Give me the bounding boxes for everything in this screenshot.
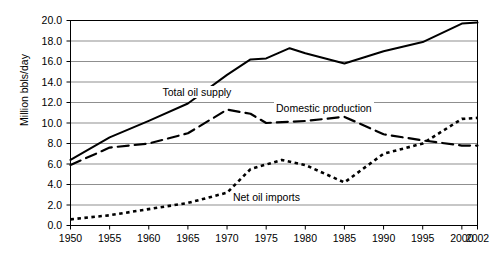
- y-tick-label: 20.0: [28, 15, 62, 25]
- y-tick-label: 8.0: [28, 138, 62, 148]
- x-tick-label: 1975: [246, 233, 286, 244]
- y-tick-label: 10.0: [28, 118, 62, 128]
- y-tick-label: 6.0: [28, 159, 62, 169]
- y-tick-label: 2.0: [28, 200, 62, 210]
- x-tick-label: 1995: [403, 233, 443, 244]
- y-tick-label: 18.0: [28, 36, 62, 46]
- x-tick-label: 1960: [129, 233, 169, 244]
- series-label-net-oil-imports: Net oil imports: [231, 191, 302, 203]
- series-label-domestic-production: Domestic production: [274, 102, 374, 114]
- x-tick-label: 1970: [207, 233, 247, 244]
- x-tick-label: 1985: [324, 233, 364, 244]
- x-tick-label: 1965: [168, 233, 208, 244]
- x-tick-marks: [71, 226, 478, 230]
- x-tick-label: 2002: [458, 233, 493, 244]
- gridlines: [71, 41, 478, 205]
- series-line: [71, 110, 478, 165]
- x-tick-label: 1950: [51, 233, 91, 244]
- y-tick-label: 14.0: [28, 77, 62, 87]
- x-tick-label: 1955: [90, 233, 130, 244]
- y-axis-label: Million bbls/day: [18, 30, 30, 150]
- x-tick-label: 1980: [285, 233, 325, 244]
- y-tick-label: 16.0: [28, 56, 62, 66]
- y-tick-label: 0.0: [28, 220, 62, 230]
- x-tick-label: 1990: [364, 233, 404, 244]
- y-tick-label: 12.0: [28, 97, 62, 107]
- series-label-total-oil-supply: Total oil supply: [161, 86, 234, 98]
- y-tick-label: 4.0: [28, 179, 62, 189]
- chart-plot-area: [0, 0, 493, 259]
- y-tick-marks: [67, 21, 71, 226]
- series-line: [71, 118, 478, 219]
- oil-supply-line-chart: Million bbls/day 0.02.04.06.08.010.012.0…: [0, 0, 493, 259]
